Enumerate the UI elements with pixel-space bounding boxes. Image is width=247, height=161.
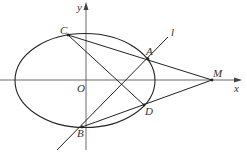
label-A: A	[146, 46, 153, 57]
x-axis-label: x	[234, 83, 239, 94]
label-M: M	[213, 68, 222, 79]
ellipse	[15, 34, 155, 128]
y-axis-arrow-icon	[84, 2, 89, 10]
line-l-label: l	[171, 27, 174, 38]
label-B: B	[77, 128, 84, 139]
segment-BM	[82, 80, 212, 127]
origin-label: O	[77, 83, 85, 94]
segment-CM	[68, 35, 212, 80]
figure-drawing	[0, 0, 247, 161]
y-axis-label: y	[77, 2, 82, 13]
label-D: D	[145, 106, 153, 117]
point-M	[211, 79, 214, 82]
point-A	[147, 58, 150, 61]
geometry-figure: y x O l A B C D M	[0, 0, 247, 161]
label-C: C	[60, 25, 67, 36]
